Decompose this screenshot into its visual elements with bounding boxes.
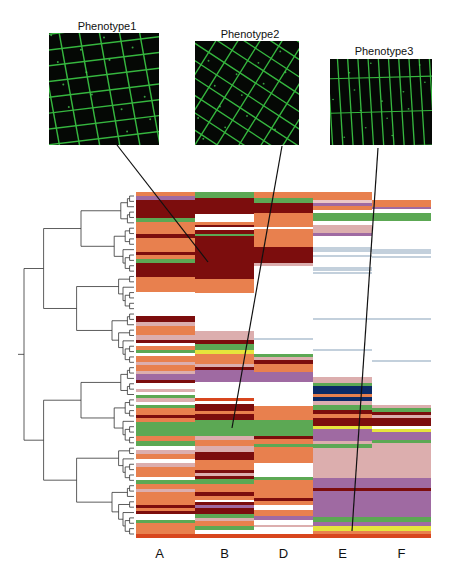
- heatmap-column-f: [372, 0, 431, 577]
- heatmap-cell: [195, 279, 254, 293]
- heatmap-cell: [313, 491, 372, 517]
- heatmap-cell: [136, 238, 195, 252]
- heatmap-cell: [254, 420, 313, 436]
- heatmap-cell: [195, 331, 254, 340]
- heatmap-cell: [313, 255, 372, 257]
- heatmap-cell: [195, 376, 254, 382]
- heatmap-cell: [195, 198, 254, 214]
- heatmap-cell: [313, 267, 372, 271]
- heatmap-cell: [195, 404, 254, 411]
- heatmap-cell: [313, 429, 372, 436]
- heatmap-cell: [254, 406, 313, 420]
- heatmap-cell: [254, 364, 313, 372]
- heatmap-cell: [372, 318, 431, 320]
- heatmap-cell: [313, 233, 372, 236]
- heatmap-cell: [372, 491, 431, 517]
- heatmap-cell: [254, 372, 313, 382]
- heatmap-cell: [254, 480, 313, 498]
- column-label: A: [150, 546, 170, 561]
- heatmap-column-b: [195, 0, 254, 577]
- heatmap-column-d: [254, 0, 313, 577]
- heatmap-cell: [195, 420, 254, 436]
- column-label: D: [274, 546, 294, 561]
- heatmap-cell: [254, 534, 313, 538]
- heatmap-cell: [136, 222, 195, 234]
- heatmap-cell: [254, 447, 313, 463]
- heatmap-cell: [254, 463, 313, 477]
- heatmap-cell: [372, 249, 431, 254]
- heatmap-cell: [136, 289, 195, 292]
- heatmap-cell: [195, 452, 254, 460]
- column-label: F: [392, 546, 412, 561]
- heatmap-cell: [136, 326, 195, 335]
- heatmap-cell: [313, 247, 372, 252]
- heatmap-cell: [313, 418, 372, 426]
- heatmap-cell: [372, 418, 431, 426]
- heatmap-cell: [195, 354, 254, 364]
- heatmap-cell: [313, 386, 372, 394]
- heatmap-cell: [372, 534, 431, 538]
- heatmap-cell: [372, 360, 431, 362]
- heatmap-cell: [195, 460, 254, 470]
- heatmap-cell: [313, 478, 372, 488]
- heatmap-column-e: [313, 0, 372, 577]
- figure: Phenotype1Phenotype2Phenotype3 ABDEF: [0, 0, 454, 577]
- heatmap-cell: [136, 380, 195, 383]
- heatmap-cell: [372, 432, 431, 440]
- heatmap-cell: [254, 213, 313, 227]
- heatmap-cell: [195, 236, 254, 256]
- heatmap-cell: [136, 523, 195, 534]
- heatmap-cell: [372, 478, 431, 488]
- heatmap-cell: [313, 534, 372, 538]
- heatmap-cell: [254, 398, 313, 406]
- heatmap-cell: [195, 534, 254, 538]
- heatmap-cell: [254, 263, 313, 266]
- heatmap-cell: [136, 492, 195, 500]
- heatmap-cell: [372, 207, 431, 209]
- heatmap-cell: [254, 229, 313, 247]
- heatmap-cell: [313, 225, 372, 233]
- column-label: E: [333, 546, 353, 561]
- heatmap-cell: [195, 484, 254, 492]
- heatmap-cell: [372, 200, 431, 207]
- heatmap-cell: [136, 277, 195, 289]
- heatmap-cell: [195, 256, 254, 279]
- heatmap-cell: [136, 408, 195, 415]
- heatmap-cell: [313, 213, 372, 221]
- heatmap-cell: [254, 527, 313, 534]
- heatmap-cell: [313, 318, 372, 320]
- heatmap-cell: [313, 349, 372, 351]
- column-label: B: [215, 546, 235, 561]
- heatmap-cell: [136, 263, 195, 277]
- heatmap-cell: [136, 422, 195, 436]
- heatmap-cell: [195, 214, 254, 222]
- heatmap-cell: [372, 213, 431, 221]
- heatmap-cell: [313, 448, 372, 478]
- heatmap-cell: [136, 467, 195, 477]
- heatmap-cell: [254, 203, 313, 213]
- heatmap-cell: [254, 338, 313, 340]
- heatmap-cell: [136, 534, 195, 538]
- heatmap-column-a: [136, 0, 195, 577]
- heatmap-cell: [195, 496, 254, 500]
- heatmap-cell: [372, 256, 431, 258]
- heatmap-cell: [313, 192, 372, 200]
- heatmap-cell: [254, 247, 313, 263]
- heatmap-cell: [313, 272, 372, 274]
- heatmap-cell: [372, 448, 431, 478]
- heatmap-cell: [136, 200, 195, 218]
